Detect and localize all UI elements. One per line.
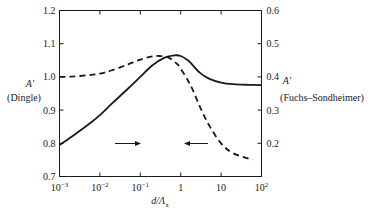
x-tick-label: 10−2 (91, 181, 109, 193)
x-tick-label: 10 (216, 182, 226, 193)
right-y-tick-label: 0.3 (267, 105, 280, 116)
left-y-tick-label: 0.9 (43, 105, 56, 116)
x-axis-title-main: d/Λ (151, 195, 165, 206)
left-y-tick-label: 1.2 (43, 5, 56, 16)
fuchs-sondheimer-curve (60, 56, 253, 160)
left-axis-title: A′ (Dingle) (7, 78, 41, 104)
x-axis-title: d/Λx (151, 195, 169, 208)
axis-arrows (115, 141, 208, 146)
x-axis-ticks: 10−310−210−1110102 (51, 11, 269, 193)
svg-text:d/Λx: d/Λx (151, 195, 169, 208)
arrow-left-icon (184, 141, 208, 146)
right-y-tick-label: 0.6 (267, 5, 280, 16)
right-y-tick-label: 0.2 (267, 138, 280, 149)
right-axis-name: (Fuchs–Sondheimer) (280, 92, 364, 104)
left-axis-name: (Dingle) (7, 92, 41, 104)
right-y-tick-label: 0.5 (267, 38, 280, 49)
left-axis-symbol: A′ (25, 78, 35, 89)
x-tick-label: 10−3 (51, 181, 69, 193)
dingle-curve (60, 55, 262, 145)
x-axis-title-sub: x (165, 201, 169, 208)
right-axis-title: A′ (Fuchs–Sondheimer) (280, 75, 364, 104)
left-y-tick-label: 1.1 (43, 38, 56, 49)
plot-frame (60, 11, 262, 177)
left-y-tick-label: 0.7 (43, 171, 56, 182)
left-y-axis-ticks: 0.70.80.91.01.11.2 (43, 5, 64, 182)
x-tick-label: 102 (255, 181, 269, 193)
chart: 10−310−210−1110102 0.70.80.91.01.11.2 0.… (0, 0, 373, 208)
right-y-axis-ticks: 0.20.30.40.50.6 (258, 5, 280, 149)
x-tick-label: 10−1 (132, 181, 150, 193)
left-y-tick-label: 0.8 (43, 138, 56, 149)
right-axis-symbol: A′ (282, 75, 292, 86)
left-y-tick-label: 1.0 (43, 71, 56, 82)
right-y-tick-label: 0.4 (267, 71, 280, 82)
x-tick-label: 1 (178, 182, 183, 193)
series-layer (60, 55, 262, 160)
arrow-right-icon (115, 141, 141, 146)
